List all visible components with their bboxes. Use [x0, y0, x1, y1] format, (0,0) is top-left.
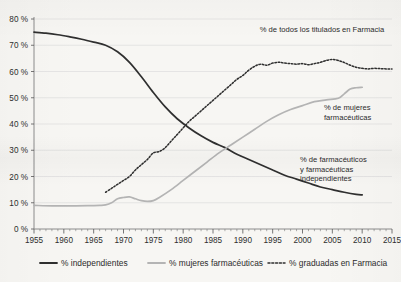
- legend-label-3: % graduadas en Farmacia: [289, 258, 388, 268]
- x-axis: 1955196019651970197519801985199019952000…: [25, 229, 401, 245]
- x-tick-label: 1970: [114, 236, 133, 245]
- y-tick-label: 80 %: [9, 15, 28, 24]
- annotation-mujeres: % de mujeres: [324, 103, 371, 112]
- y-tick-label: 40 %: [9, 120, 28, 129]
- series-line-mujeres-farmaceuticas: [34, 87, 362, 206]
- y-tick-label: 30 %: [9, 146, 28, 155]
- x-tick-label: 1995: [264, 236, 283, 245]
- annotation-graduadas: % de todos los titulados en Farmacia: [260, 25, 385, 34]
- y-tick-label: 20 %: [9, 173, 28, 182]
- annotation-independientes: % de farmacéuticos: [300, 155, 367, 164]
- legend-label-2: % mujeres farmacéuticas: [169, 258, 263, 268]
- y-tick-label: 50 %: [9, 94, 28, 103]
- chart-annotations: % de todos los titulados en Farmacia% de…: [260, 25, 385, 183]
- legend-label-1: % independientes: [61, 258, 128, 268]
- y-axis: 0 %10 %20 %30 %40 %50 %60 %70 %80 %: [9, 15, 34, 234]
- x-tick-label: 2005: [323, 236, 342, 245]
- line-chart: 0 %10 %20 %30 %40 %50 %60 %70 %80 % 1955…: [0, 0, 401, 282]
- y-tick-label: 60 %: [9, 68, 28, 77]
- y-tick-label: 10 %: [9, 199, 28, 208]
- y-tick-label: 70 %: [9, 41, 28, 50]
- x-tick-label: 1990: [234, 236, 253, 245]
- x-tick-label: 2015: [383, 236, 401, 245]
- x-tick-label: 2000: [293, 236, 312, 245]
- x-tick-label: 1975: [144, 236, 163, 245]
- x-tick-label: 1980: [174, 236, 193, 245]
- annotation-independientes: y farmacéuticas: [300, 165, 353, 174]
- x-tick-label: 1960: [55, 236, 74, 245]
- x-tick-label: 2010: [353, 236, 372, 245]
- x-tick-label: 1965: [85, 236, 104, 245]
- x-tick-label: 1955: [25, 236, 44, 245]
- chart-container: 0 %10 %20 %30 %40 %50 %60 %70 %80 % 1955…: [0, 0, 401, 282]
- annotation-mujeres: farmacéuticas: [324, 113, 371, 122]
- y-tick-label: 0 %: [14, 225, 28, 234]
- chart-legend: % independientes% mujeres farmacéuticas%…: [40, 258, 388, 268]
- x-tick-label: 1985: [204, 236, 223, 245]
- annotation-independientes: independientes: [300, 174, 352, 183]
